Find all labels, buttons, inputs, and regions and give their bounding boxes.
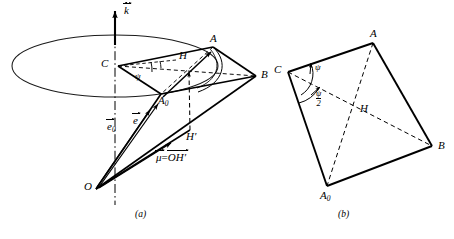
angular-velocity-label: k <box>124 5 129 16</box>
panel-b-label-B: B <box>438 140 445 151</box>
panel-b-label-psi-half: ψ2 <box>316 89 321 107</box>
panel-a-label-H-prime: H′ <box>186 131 196 142</box>
panel-b-edge-A-B <box>373 43 432 146</box>
edge-O-B <box>96 76 256 189</box>
panel-a-label-B: B <box>261 69 268 80</box>
psi-angle-arc-outer <box>160 61 161 68</box>
generator-A0-to-A-arrow <box>163 52 211 97</box>
panel-a-label-A0: A0 <box>158 95 168 107</box>
vector-e0-arrow <box>97 110 150 187</box>
panel-b-label-C: C <box>274 64 281 75</box>
panel-a-label-C: C <box>101 58 108 69</box>
diagonal-A-A0-dashed <box>161 47 213 94</box>
psi-angle-arc <box>151 62 152 72</box>
panel-a-label-A: A <box>210 33 217 44</box>
panel-b-diagonal-A-A0-dashed <box>327 43 373 186</box>
panel-b-label-A: A <box>370 28 377 39</box>
panel-b-label-A0: A0 <box>320 190 330 202</box>
panel-a-label-e0: e0 <box>107 121 116 133</box>
panel-a-caption: (a) <box>135 210 146 220</box>
panel-b-caption: (b) <box>338 210 349 220</box>
panel-b-edge-B-A0 <box>327 146 432 186</box>
vector-e-arrow <box>99 104 158 187</box>
panel-a-drawing <box>12 11 256 205</box>
drop-H-to-Hprime-dashed <box>189 72 190 130</box>
panel-b-label-psi: ψ <box>315 63 321 72</box>
panel-a-label-O: O <box>84 181 92 192</box>
panel-b-label-H: H <box>360 103 368 114</box>
edge-A-B <box>213 47 256 76</box>
panel-b-edge-C-A <box>288 43 373 72</box>
panel-a-label-H: H <box>179 50 187 61</box>
panel-b-drawing <box>288 43 432 186</box>
panel-a-label-e: e <box>133 115 138 126</box>
figure-container: k C A B H A0 H′ ψ e0 e μ=OH′ O (a) C A B… <box>0 0 454 239</box>
panel-a-label-psi: ψ <box>135 72 141 81</box>
panel-a-label-mu-equation: μ=OH′ <box>156 152 186 163</box>
figure-drawing <box>0 0 454 239</box>
